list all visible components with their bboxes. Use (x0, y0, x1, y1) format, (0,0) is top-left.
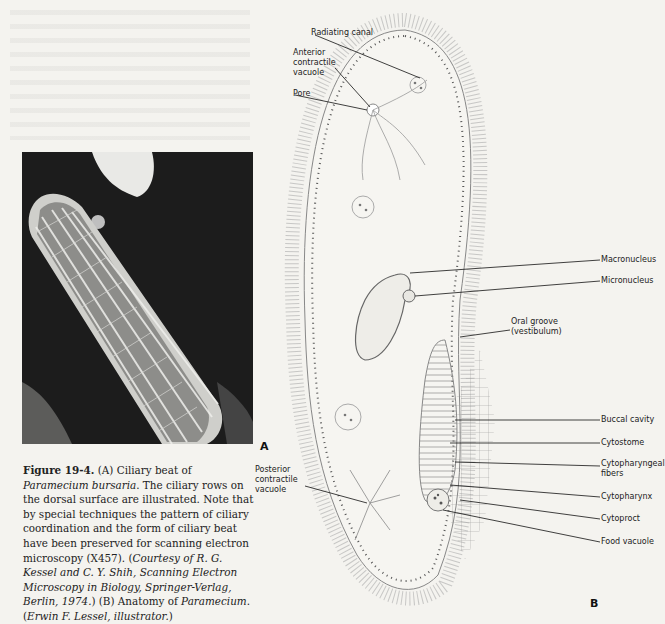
label-posterior-contractile-vacuole-2: contractile (255, 475, 298, 485)
label-pore: Pore (293, 89, 310, 99)
caption-text: (A) Ciliary beat of (94, 464, 191, 476)
caption-genus: Paramecium (181, 595, 247, 607)
caption-text: ) (B) Anatomy of (91, 595, 181, 607)
label-cytopharynx: Cytopharynx (601, 492, 652, 502)
label-posterior-contractile-vacuole-1: Posterior (255, 465, 290, 475)
label-radiating-canal: Radiating canal (311, 28, 373, 38)
sem-photograph (22, 152, 253, 444)
paramecium-diagram: Radiating canal Anterior contractile vac… (255, 0, 630, 612)
label-food-vacuole: Food vacuole (601, 537, 654, 547)
bleed-through-text (10, 10, 250, 140)
figure-number: Figure 19-4. (23, 464, 94, 476)
label-cytoproct: Cytoproct (601, 514, 640, 524)
label-anterior-contractile-vacuole-1: Anterior (293, 48, 325, 58)
figure-caption: Figure 19-4. (A) Ciliary beat of Paramec… (23, 463, 255, 624)
label-anterior-contractile-vacuole-2: contractile (293, 58, 336, 68)
label-buccal-cavity: Buccal cavity (601, 415, 654, 425)
label-posterior-contractile-vacuole-3: vacuole (255, 485, 286, 495)
label-oral-groove-1: Oral groove (511, 317, 558, 327)
panel-b-label: B (590, 597, 598, 610)
caption-text: ) (169, 610, 173, 622)
label-anterior-contractile-vacuole-3: vacuole (293, 68, 324, 78)
label-cytopharyngeal-fibers-1: Cytopharyngeal (601, 459, 665, 469)
label-cytopharyngeal-fibers-2: fibers (601, 469, 624, 479)
label-oral-groove-2: (vestibulum) (511, 327, 562, 337)
caption-species: Paramecium bursaria (23, 479, 136, 491)
label-macronucleus: Macronucleus (601, 255, 656, 265)
label-cytostome: Cytostome (601, 438, 644, 448)
caption-illustrator: Erwin F. Lessel, illustrator. (27, 610, 169, 622)
label-micronucleus: Micronucleus (601, 276, 653, 286)
